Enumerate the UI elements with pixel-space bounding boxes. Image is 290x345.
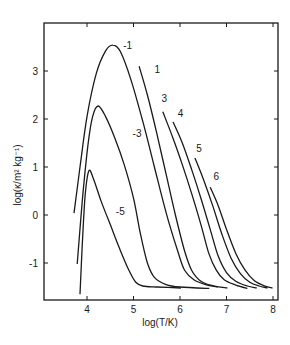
x-tick-label: 4: [84, 304, 90, 315]
curve-3: [163, 112, 248, 289]
curve--5: [80, 170, 181, 294]
y-tick-label: 3: [32, 66, 38, 77]
x-tick-label: 6: [177, 304, 183, 315]
curve-label: -1: [123, 40, 132, 51]
curve-4: [173, 122, 257, 288]
curve--3: [77, 106, 209, 288]
x-tick-label: 5: [131, 304, 137, 315]
y-tick-label: 1: [32, 162, 38, 173]
curve-label: 6: [213, 171, 219, 182]
x-tick-label: 7: [224, 304, 230, 315]
curve--1: [74, 45, 218, 287]
x-axis-title: log(T/K): [142, 317, 178, 328]
curve-label: 5: [196, 143, 202, 154]
y-tick-label: 0: [32, 210, 38, 221]
y-tick-label: -1: [29, 258, 38, 269]
x-tick-label: 8: [270, 304, 276, 315]
plot-frame: [44, 23, 278, 300]
curve-label: 1: [154, 64, 160, 75]
y-axis-title: log(κ/m² kg⁻¹): [12, 144, 23, 205]
opacity-chart: 45678-10123 -1-3-513456 log(T/K) log(κ/m…: [0, 0, 290, 345]
curve-label: -3: [133, 128, 142, 139]
curve-label: 3: [161, 93, 167, 104]
curve-group: [74, 45, 273, 294]
curve-label: 4: [178, 108, 184, 119]
y-tick-label: 2: [32, 114, 38, 125]
curve-6: [210, 187, 272, 288]
curve-5: [195, 158, 268, 288]
curve-label: -5: [116, 206, 125, 217]
